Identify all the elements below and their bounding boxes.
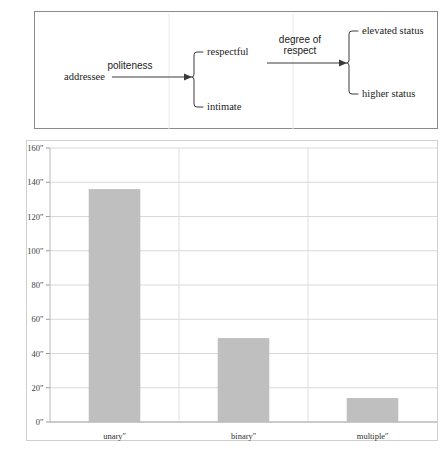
diagram-edge-label-politeness: politeness: [107, 60, 152, 71]
x-category-label: multipleʺ: [357, 431, 389, 441]
diagram-bracket-politeness: [192, 52, 203, 107]
bar[interactable]: [218, 338, 270, 422]
x-category-label: unaryʺ: [103, 431, 126, 441]
y-tick-label: 140ʺ: [27, 177, 44, 187]
y-tick-label: 20ʺ: [31, 383, 44, 393]
y-tick-label: 80ʺ: [31, 280, 44, 290]
y-tick-label: 0ʺ: [36, 417, 44, 427]
diagram-arrow-politeness-head: [184, 74, 192, 81]
y-tick-label: 60ʺ: [31, 314, 44, 324]
diagram-node-elevated-status: elevated status: [362, 25, 424, 36]
diagram-panel: addressee politeness respectful intimate…: [34, 11, 438, 129]
y-tick-label: 40ʺ: [31, 349, 44, 359]
y-tick-label: 160ʺ: [27, 143, 44, 153]
diagram-edge-label-degree-line1: degree of: [279, 34, 321, 45]
bar[interactable]: [347, 398, 399, 422]
y-tick-label: 120ʺ: [27, 212, 44, 222]
diagram-node-respectful: respectful: [207, 46, 248, 57]
diagram-node-higher-status: higher status: [362, 88, 415, 99]
bar[interactable]: [89, 189, 141, 422]
y-tick-label: 100ʺ: [27, 246, 44, 256]
diagram-node-addressee: addressee: [64, 71, 105, 82]
diagram-edge-label-degree-line2: respect: [284, 45, 317, 56]
diagram-canvas: addressee politeness respectful intimate…: [35, 12, 439, 130]
bar-chart-panel: 0ʺ20ʺ40ʺ60ʺ80ʺ100ʺ120ʺ140ʺ160ʺunaryʺbina…: [0, 138, 444, 450]
diagram-bracket-status: [347, 31, 358, 94]
diagram-arrow-degree-head: [339, 60, 347, 67]
bar-chart-canvas: 0ʺ20ʺ40ʺ60ʺ80ʺ100ʺ120ʺ140ʺ160ʺunaryʺbina…: [0, 138, 444, 450]
diagram-node-intimate: intimate: [207, 101, 242, 112]
x-category-label: binaryʺ: [231, 431, 257, 441]
